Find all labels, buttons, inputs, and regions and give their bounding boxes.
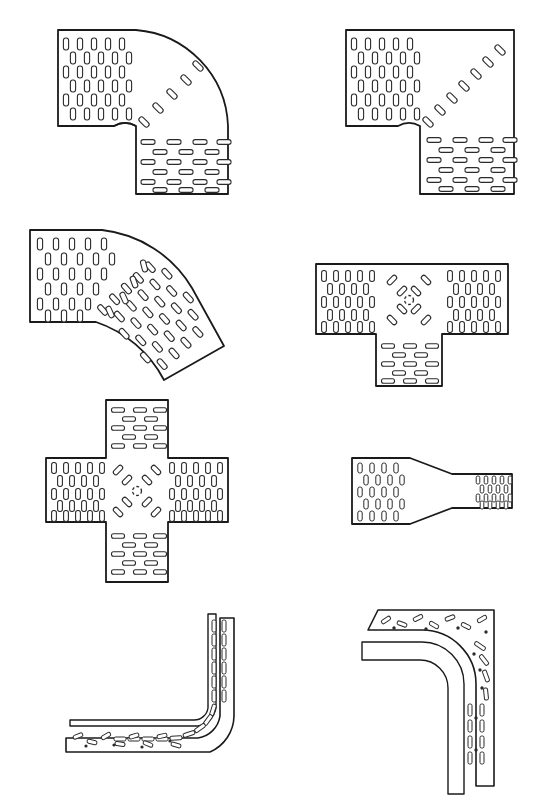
figure-vertical-bend-inside-riser — [58, 608, 254, 764]
horizontal-tee-svg — [310, 258, 514, 392]
vertical-bend-outside-svg — [334, 604, 522, 796]
horizontal-cross-svg — [42, 396, 232, 586]
figure-horizontal-bend-90-square — [340, 22, 522, 202]
drawing-sheet — [0, 0, 538, 799]
figure-straight-reducer — [348, 452, 516, 530]
figure-horizontal-bend-90-radius — [52, 22, 237, 202]
bend-body-outline — [346, 30, 514, 194]
vertical-bend-inside-svg — [58, 608, 254, 764]
horizontal-bend-45-svg — [24, 222, 244, 394]
straight-reducer-svg — [348, 452, 516, 530]
figure-horizontal-bend-45 — [24, 222, 244, 394]
horizontal-bend-90-square-svg — [340, 22, 522, 202]
riser-inner-rail — [70, 614, 216, 726]
tee-body-outline — [316, 264, 508, 386]
horizontal-bend-90-radius-svg — [52, 22, 237, 202]
drop-inner-rail — [362, 642, 464, 794]
inner-fillet — [114, 123, 136, 126]
figure-horizontal-tee — [310, 258, 514, 392]
figure-horizontal-cross — [42, 396, 232, 586]
bend-body-outline — [58, 30, 228, 194]
figure-vertical-bend-outside-drop — [334, 604, 522, 796]
drop-outer-profile — [368, 610, 494, 786]
